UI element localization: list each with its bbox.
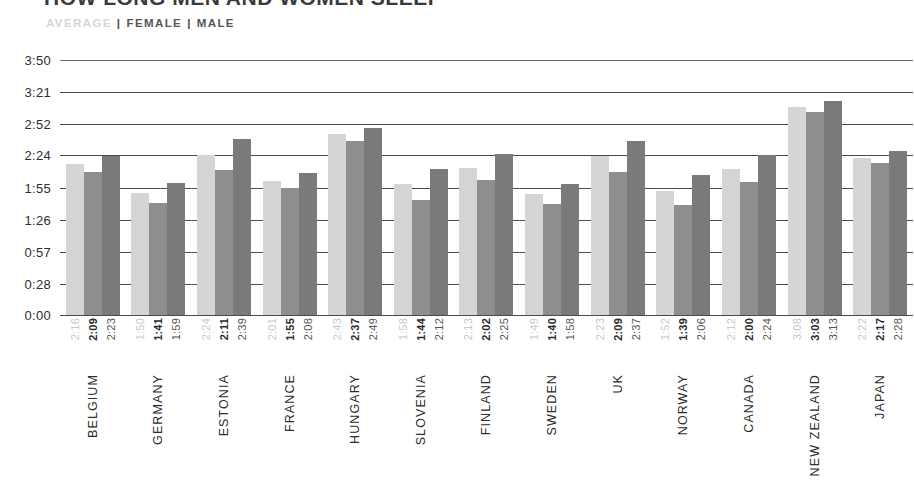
bar-male — [561, 184, 579, 315]
value-label-average: 2:22 — [853, 318, 871, 368]
value-label-male: 1:58 — [561, 318, 579, 368]
bar-male — [889, 151, 907, 315]
value-label-average: 2:16 — [66, 318, 84, 368]
value-label-group: 2:011:552:08 — [257, 318, 323, 370]
value-label-male: 2:25 — [495, 318, 513, 368]
bar-male — [364, 128, 382, 315]
bar-average — [131, 193, 149, 315]
y-axis-label: 2:52 — [3, 117, 51, 132]
value-label-male: 2:49 — [364, 318, 382, 368]
y-axis-label: 0:00 — [3, 308, 51, 323]
bar-average — [394, 184, 412, 315]
bar-group — [322, 60, 388, 315]
bar-female — [543, 204, 561, 315]
chart-page: HOW LONG MEN AND WOMEN SLEEP AVERAGE | F… — [0, 0, 914, 497]
bar-female — [806, 112, 824, 315]
value-label-average: 1:49 — [525, 318, 543, 368]
bar-group — [126, 60, 192, 315]
category-label: NEW ZEALAND — [782, 372, 848, 494]
plot-area: 3:503:212:522:241:551:260:570:280:00 — [60, 60, 913, 315]
bar-female — [477, 180, 495, 315]
bar-female — [674, 205, 692, 315]
value-label-female: 2:17 — [871, 318, 889, 368]
bar-female — [346, 141, 364, 315]
category-label: UK — [585, 372, 651, 494]
value-label-average: 2:24 — [197, 318, 215, 368]
gridline — [60, 315, 913, 316]
bar-female — [609, 172, 627, 315]
bar-average — [459, 168, 477, 315]
category-label: FINLAND — [454, 372, 520, 494]
value-label-male: 2:37 — [627, 318, 645, 368]
bar-male — [824, 101, 842, 315]
bar-group — [716, 60, 782, 315]
y-axis-label: 2:24 — [3, 148, 51, 163]
value-label-female: 1:41 — [149, 318, 167, 368]
y-axis-label: 1:55 — [3, 180, 51, 195]
category-label: JAPAN — [847, 372, 913, 494]
bar-female — [149, 203, 167, 315]
value-label-group: 3:083:033:13 — [782, 318, 848, 370]
value-label-female: 1:55 — [281, 318, 299, 368]
bar-male — [627, 141, 645, 315]
value-label-group: 2:432:372:49 — [322, 318, 388, 370]
bar-group — [847, 60, 913, 315]
bar-female — [412, 200, 430, 315]
bar-group — [650, 60, 716, 315]
bar-female — [740, 182, 758, 315]
value-label-female: 2:00 — [740, 318, 758, 368]
bar-male — [299, 173, 317, 315]
bar-group — [191, 60, 257, 315]
bar-male — [233, 139, 251, 315]
value-label-average: 2:23 — [591, 318, 609, 368]
bar-female — [871, 163, 889, 315]
y-axis-label: 3:50 — [3, 53, 51, 68]
value-label-male: 2:12 — [430, 318, 448, 368]
value-label-group: 1:491:401:58 — [519, 318, 585, 370]
value-label-male: 2:08 — [299, 318, 317, 368]
legend-item-average: AVERAGE — [45, 17, 113, 29]
category-label: FRANCE — [257, 372, 323, 494]
bar-group — [782, 60, 848, 315]
value-label-group: 2:132:022:25 — [454, 318, 520, 370]
legend-separator-2: | — [183, 17, 196, 29]
value-label-average: 2:43 — [328, 318, 346, 368]
bar-group — [257, 60, 323, 315]
bar-male — [430, 169, 448, 315]
value-label-group: 1:521:392:06 — [650, 318, 716, 370]
value-label-group: 2:122:002:24 — [716, 318, 782, 370]
value-label-female: 1:44 — [412, 318, 430, 368]
bar-average — [66, 164, 84, 315]
value-label-average: 2:01 — [263, 318, 281, 368]
value-label-female: 2:09 — [84, 318, 102, 368]
chart-legend: AVERAGE | FEMALE | MALE — [45, 17, 236, 29]
value-label-average: 3:08 — [788, 318, 806, 368]
value-label-average: 1:58 — [394, 318, 412, 368]
value-label-average: 1:52 — [656, 318, 674, 368]
value-label-male: 2:28 — [889, 318, 907, 368]
value-label-male: 2:06 — [692, 318, 710, 368]
bar-average — [263, 181, 281, 315]
bar-male — [102, 156, 120, 315]
y-axis-label: 1:26 — [3, 212, 51, 227]
category-label: NORWAY — [650, 372, 716, 494]
page-title: HOW LONG MEN AND WOMEN SLEEP — [44, 0, 442, 6]
value-label-female: 1:40 — [543, 318, 561, 368]
y-axis-label: 0:57 — [3, 244, 51, 259]
value-label-average: 2:13 — [459, 318, 477, 368]
bar-average — [853, 158, 871, 315]
value-label-group: 1:581:442:12 — [388, 318, 454, 370]
value-label-average: 1:50 — [131, 318, 149, 368]
bar-male — [167, 183, 185, 315]
bar-average — [656, 191, 674, 315]
bar-average — [525, 194, 543, 315]
bar-female — [281, 188, 299, 316]
value-label-male: 2:23 — [102, 318, 120, 368]
bar-group — [454, 60, 520, 315]
bar-male — [692, 175, 710, 315]
category-label: SWEDEN — [519, 372, 585, 494]
bar-male — [495, 154, 513, 315]
value-label-group: 1:501:411:59 — [126, 318, 192, 370]
value-label-female: 3:03 — [806, 318, 824, 368]
value-labels: 2:162:092:231:501:411:592:242:112:392:01… — [60, 318, 913, 370]
